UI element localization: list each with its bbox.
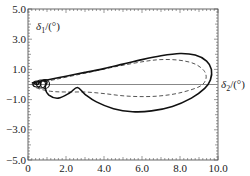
y-tick-label: 5.0 [12, 3, 26, 15]
x-axis-label: δ2/(°) [221, 78, 245, 93]
y-tick-label: −3.0 [6, 123, 26, 135]
y-axis-label: δ1/(°) [36, 20, 60, 35]
y-tick-label: −1.0 [6, 93, 26, 105]
x-tick-label: 6.0 [135, 162, 149, 174]
line-chart: 5.03.01.0−1.0−3.0−5.0 02.04.06.08.010.0 … [0, 0, 250, 176]
y-tick-label: −5.0 [6, 154, 26, 166]
x-tick-label: 0 [25, 162, 31, 174]
x-tick-label: 2.0 [59, 162, 73, 174]
x-tick-label: 10.0 [208, 162, 228, 174]
solid-series-line [32, 53, 212, 111]
x-tick-label: 4.0 [97, 162, 111, 174]
x-tick-labels: 02.04.06.08.010.0 [25, 162, 228, 174]
x-tick-label: 8.0 [173, 162, 187, 174]
y-tick-label: 1.0 [12, 63, 26, 75]
y-tick-labels: 5.03.01.0−1.0−3.0−5.0 [6, 3, 26, 166]
y-tick-label: 3.0 [12, 33, 26, 45]
